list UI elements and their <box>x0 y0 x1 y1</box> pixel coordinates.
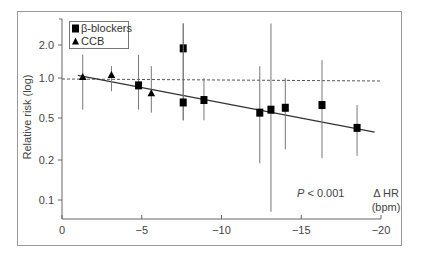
x-tick-label: −20 <box>372 224 391 236</box>
y-tick-label: 0.5 <box>39 112 54 124</box>
y-tick-label: 0.2 <box>39 154 54 166</box>
legend-square-icon <box>72 25 79 33</box>
y-tick-label: 0.1 <box>39 194 54 206</box>
y-axis-title: Relative risk (log) <box>21 75 33 160</box>
square-marker-icon <box>267 106 274 114</box>
x-tick-label: −15 <box>292 224 311 236</box>
x-tick-label: −5 <box>135 224 148 236</box>
legend: β-blockers CCB <box>70 22 133 49</box>
y-tick-label: 2.0 <box>39 39 54 51</box>
y-tick-label: 1.0 <box>39 72 54 84</box>
x-tick-label: 0 <box>59 224 65 236</box>
chart: 2.01.00.50.20.10−5−10−15−20 β-blockers C… <box>0 0 428 256</box>
p-value-text: < 0.001 <box>304 187 344 199</box>
p-value-annotation: P < 0.001 <box>297 187 344 199</box>
square-marker-icon <box>318 101 325 109</box>
x-axis-title-line2: (bpm) <box>372 201 401 213</box>
square-marker-icon <box>180 98 187 106</box>
square-marker-icon <box>354 124 361 132</box>
legend-label-beta-blockers: β-blockers <box>81 22 132 34</box>
square-marker-icon <box>256 109 263 117</box>
legend-label-ccb: CCB <box>81 35 104 47</box>
square-marker-icon <box>200 96 207 104</box>
x-tick-label: −10 <box>212 224 231 236</box>
square-marker-icon <box>282 104 289 112</box>
square-marker-icon <box>135 81 142 89</box>
x-axis-title-line1: Δ HR <box>373 187 399 199</box>
